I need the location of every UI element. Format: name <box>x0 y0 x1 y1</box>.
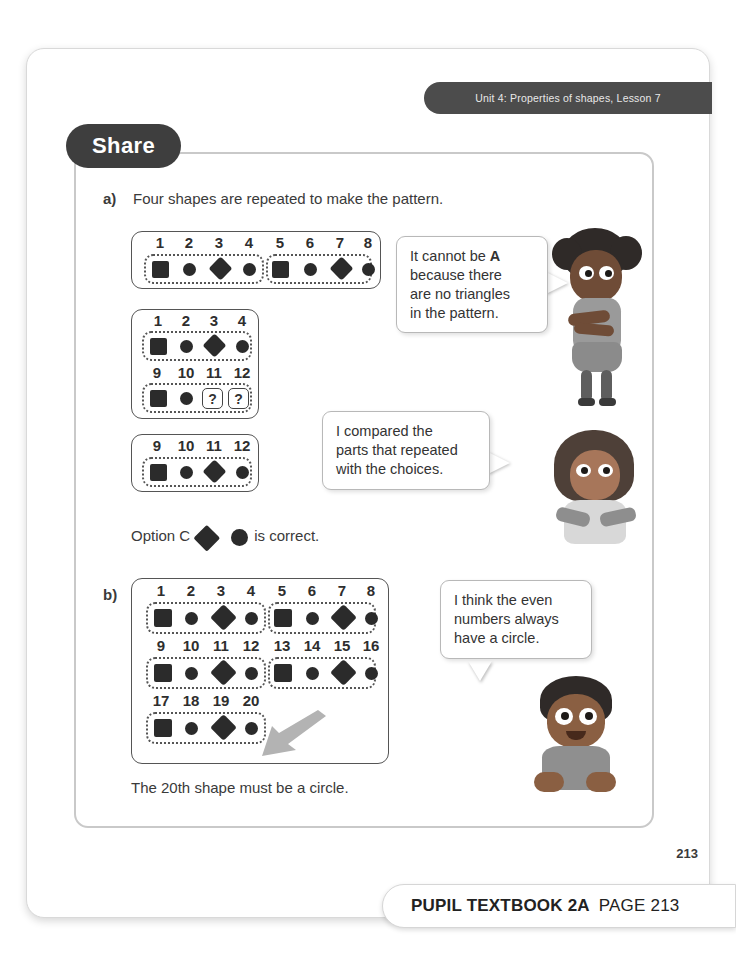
shape-square <box>272 261 289 278</box>
unit-banner: Unit 4: Properties of shapes, Lesson 7 <box>424 82 712 114</box>
shape-circle <box>306 667 319 680</box>
shape-circle <box>180 340 193 353</box>
pattern3-num-11: 11 <box>206 437 222 454</box>
pattern2-top-num-1: 1 <box>154 312 162 329</box>
shape-circle <box>362 263 375 276</box>
pattern1-num-4: 4 <box>245 234 253 251</box>
shape-square <box>150 338 167 355</box>
pupil-left <box>561 712 569 720</box>
shape-square <box>154 719 172 737</box>
bubble1-line2: because there <box>410 266 534 285</box>
pupil-right <box>603 467 610 474</box>
face <box>570 250 622 302</box>
footer-book-label: PUPIL TEXTBOOK 2A <box>411 896 590 916</box>
shape-circle <box>185 722 198 735</box>
answer-prefix: Option C <box>131 527 190 544</box>
part-b-conclusion: The 20th shape must be a circle. <box>131 779 349 796</box>
pattern1-num-1: 1 <box>156 234 164 251</box>
bubble3-line1: I think the even <box>454 591 578 610</box>
pattern2-top-num-3: 3 <box>210 312 218 329</box>
bubble1-line3: are no triangles <box>410 285 534 304</box>
part-b-marker: b) <box>103 586 117 603</box>
b-row2-num-14: 14 <box>304 637 321 654</box>
b-row2-num-12: 12 <box>243 637 260 654</box>
leg-left-crossed <box>534 772 564 792</box>
bubble2-line1: I compared the <box>336 422 476 441</box>
pattern1-num-7: 7 <box>336 234 344 251</box>
footer-bar: PUPIL TEXTBOOK 2A PAGE 213 <box>382 884 736 928</box>
pattern3-num-9: 9 <box>153 437 161 454</box>
pattern2-bot-num-10: 10 <box>178 364 195 381</box>
shoe-left <box>578 398 595 406</box>
b-row2-num-9: 9 <box>157 637 165 654</box>
unknown-shape-box[interactable]: ? <box>202 388 223 409</box>
b-row3-num-18: 18 <box>183 692 200 709</box>
speech-tail-3 <box>468 661 492 681</box>
bubble2-line2: parts that repeated <box>336 441 476 460</box>
b-row3-num-17: 17 <box>153 692 170 709</box>
shape-circle <box>365 612 378 625</box>
pattern1-num-6: 6 <box>306 234 314 251</box>
shape-circle <box>236 340 249 353</box>
part-a-answer: Option Cis correct. <box>131 527 319 547</box>
shape-circle <box>185 667 198 680</box>
b-row2-num-16: 16 <box>363 637 380 654</box>
pupil-right <box>585 712 593 720</box>
speech-bubble-girl-1: It cannot be A because there are no tria… <box>396 236 548 333</box>
pattern2-bot-num-11: 11 <box>206 364 222 381</box>
bubble2-line3: with the choices. <box>336 460 476 479</box>
pattern2-bot-num-9: 9 <box>153 364 161 381</box>
unit-banner-text: Unit 4: Properties of shapes, Lesson 7 <box>475 92 661 104</box>
pattern1-num-5: 5 <box>276 234 284 251</box>
bubble3-line3: have a circle. <box>454 629 578 648</box>
pointer-arrow-icon <box>252 710 330 768</box>
unknown-shape-box[interactable]: ? <box>228 388 249 409</box>
speech-tail-2 <box>488 452 510 474</box>
shoe-right <box>599 398 616 406</box>
b-row1-num-7: 7 <box>338 582 346 599</box>
page-number: 213 <box>676 846 698 861</box>
shape-circle <box>365 667 378 680</box>
bubble1-line1-a: It cannot be <box>410 248 490 264</box>
shape-circle <box>306 612 319 625</box>
character-boy-sitting <box>520 676 630 804</box>
shape-square <box>274 609 292 627</box>
pupil-right <box>605 270 612 277</box>
b-row1-num-8: 8 <box>367 582 375 599</box>
pattern2-top-num-4: 4 <box>238 312 246 329</box>
footer-page-label: PAGE 213 <box>599 896 680 916</box>
shape-circle <box>180 392 193 405</box>
b-row3-num-20: 20 <box>243 692 260 709</box>
pattern3-num-10: 10 <box>178 437 195 454</box>
bubble1-line1: It cannot be A <box>410 247 534 266</box>
section-tab-label: Share <box>92 133 155 159</box>
shape-circle <box>245 667 258 680</box>
bubble1-line4: in the pattern. <box>410 304 534 323</box>
b-row1-num-2: 2 <box>187 582 195 599</box>
shape-square <box>150 390 167 407</box>
pattern1-num-8: 8 <box>364 234 372 251</box>
shape-circle <box>185 612 198 625</box>
pattern-box-3: 9 10 11 12 <box>131 434 259 492</box>
shape-square <box>274 664 292 682</box>
part-a-marker: a) <box>103 190 116 207</box>
character-girl-leaning <box>548 430 644 548</box>
pattern-box-1: 1 2 3 4 5 6 7 8 <box>131 231 381 289</box>
pattern2-bot-num-12: 12 <box>234 364 251 381</box>
shape-square <box>154 609 172 627</box>
answer-suffix: is correct. <box>254 527 319 544</box>
b-row3-num-19: 19 <box>213 692 230 709</box>
bubble1-line1-bold: A <box>490 248 500 264</box>
b-row2-num-15: 15 <box>334 637 351 654</box>
shape-square <box>152 261 169 278</box>
pattern3-num-12: 12 <box>234 437 251 454</box>
skirt <box>572 342 622 372</box>
b-row2-num-10: 10 <box>183 637 200 654</box>
section-tab-share: Share <box>66 124 181 168</box>
pattern2-top-num-2: 2 <box>182 312 190 329</box>
shape-circle <box>304 263 317 276</box>
shape-circle <box>245 612 258 625</box>
b-row2-num-11: 11 <box>213 637 229 654</box>
pattern1-num-3: 3 <box>215 234 223 251</box>
character-girl-standing <box>548 228 646 408</box>
